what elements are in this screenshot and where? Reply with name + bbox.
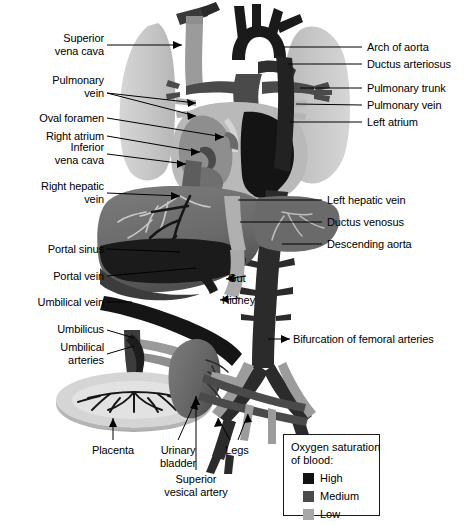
label-superior-vena-cava: Superior vena cava [18, 32, 104, 57]
label-urinary-bladder: Urinary bladder [150, 444, 206, 469]
legend-swatch-high [303, 473, 314, 484]
label-bifurcation-of-femoral-arteries: Bifurcation of femoral arteries [293, 333, 434, 346]
legend-row-medium: Medium [303, 488, 379, 504]
legend-row-high: High [303, 470, 379, 486]
label-legs: Legs [220, 444, 254, 457]
label-pulmonary-vein-left: Pulmonary vein [18, 74, 104, 99]
legend-title: Oxygen saturation of blood: [291, 441, 379, 466]
legend-swatch-medium [303, 491, 314, 502]
umbilical-vein-vessel [100, 296, 242, 366]
label-umbilical-vein: Umbilical vein [6, 296, 104, 309]
label-portal-sinus: Portal sinus [14, 243, 104, 256]
liver [97, 186, 339, 300]
label-portal-vein: Portal vein [14, 270, 104, 283]
legend-rows: High Medium Low [303, 470, 379, 522]
label-inferior-vena-cava: Inferior vena cava [18, 141, 104, 166]
label-ductus-venosus: Ductus venosus [327, 216, 404, 229]
label-left-hepatic-vein: Left hepatic vein [327, 194, 405, 207]
superior-vena-cava-vessel [185, 16, 203, 86]
label-right-hepatic-vein: Right hepatic vein [6, 180, 104, 205]
legend-label-low: Low [320, 508, 340, 520]
label-descending-aorta: Descending aorta [327, 238, 412, 251]
label-gut: Gut [228, 272, 245, 285]
legend-label-medium: Medium [320, 490, 359, 502]
label-umbilicus: Umbilicus [22, 323, 104, 336]
label-placenta: Placenta [83, 444, 143, 457]
label-pulmonary-trunk: Pulmonary trunk [367, 82, 446, 95]
label-umbilical-arteries: Umbilical arteries [26, 341, 104, 366]
label-left-atrium: Left atrium [367, 116, 418, 129]
legend-box: Oxygen saturation of blood: High Medium … [283, 434, 380, 516]
legend-swatch-low [303, 509, 314, 520]
label-ductus-arteriosus: Ductus arteriosus [367, 58, 451, 71]
label-kidney: Kidney [222, 294, 255, 307]
label-pulmonary-vein-right: Pulmonary vein [367, 99, 441, 112]
label-oval-foramen: Oval foramen [14, 112, 104, 125]
label-arch-of-aorta: Arch of aorta [367, 41, 429, 54]
legend-row-low: Low [303, 506, 379, 522]
fetal-circulation-figure: Superior vena cava Pulmonary vein Oval f… [0, 0, 465, 525]
label-superior-vesical-artery: Superior vesical artery [149, 473, 243, 498]
legend-label-high: High [320, 472, 343, 484]
